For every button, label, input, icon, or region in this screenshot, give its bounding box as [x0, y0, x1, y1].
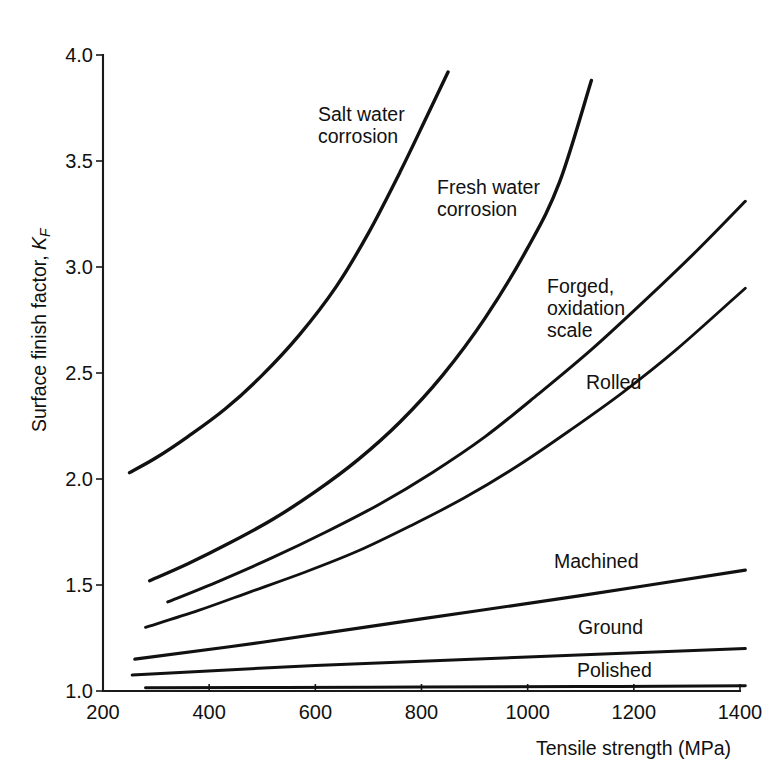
- y-tick-label: 4.0: [35, 44, 93, 67]
- x-tick-label: 800: [405, 701, 438, 724]
- y-axis-title-symbol: K: [28, 237, 50, 250]
- x-tick-label: 400: [192, 701, 225, 724]
- x-tick-label: 1200: [612, 701, 657, 724]
- x-axis-title: Tensile strength (MPa): [536, 737, 731, 760]
- curve-label-forged-oxidation-scale: Forged, oxidation scale: [547, 276, 625, 341]
- y-axis-title: Surface finish factor, KF: [28, 228, 53, 432]
- x-tick-label: 200: [86, 701, 119, 724]
- curve-forged-oxidation-scale: [168, 201, 746, 602]
- curve-machined: [135, 570, 745, 659]
- axes-group: [96, 55, 740, 692]
- y-tick-label: 2.0: [35, 468, 93, 491]
- x-tick-label: 1400: [718, 701, 763, 724]
- x-tick-label: 600: [299, 701, 332, 724]
- x-tick-label: 1000: [505, 701, 550, 724]
- curve-label-machined: Machined: [554, 551, 639, 573]
- chart-figure: 1.01.52.02.53.03.54.0 200400600800100012…: [0, 0, 781, 781]
- curve-fresh-water-corrosion: [150, 80, 592, 580]
- y-tick-label: 1.5: [35, 574, 93, 597]
- y-axis-title-subscript: F: [37, 228, 53, 237]
- curve-label-ground: Ground: [578, 617, 643, 639]
- data-curves-group: [130, 72, 746, 688]
- y-axis-title-text: Surface finish factor,: [28, 250, 50, 432]
- curve-label-salt-water-corrosion: Salt water corrosion: [318, 104, 405, 148]
- curve-label-rolled: Rolled: [586, 372, 641, 394]
- curve-label-fresh-water-corrosion: Fresh water corrosion: [437, 177, 540, 221]
- curve-ground: [132, 649, 745, 676]
- y-tick-label: 1.0: [35, 680, 93, 703]
- y-tick-label: 3.5: [35, 150, 93, 173]
- curve-polished: [145, 686, 745, 688]
- curve-label-polished: Polished: [577, 660, 652, 682]
- curve-rolled: [145, 288, 745, 627]
